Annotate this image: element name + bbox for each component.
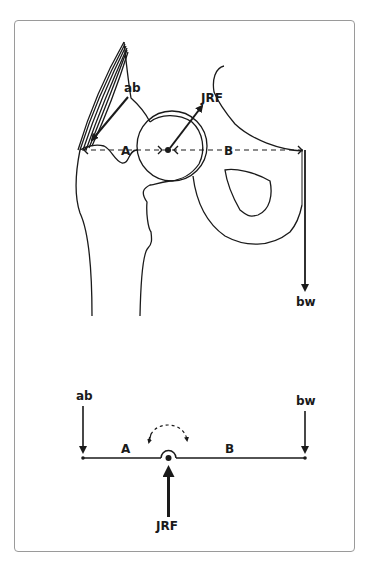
label-b-bottom: B (225, 442, 234, 456)
label-bw-top: bw (296, 295, 316, 309)
label-jrf-top: JRF (200, 91, 223, 105)
femur-medial-outline (140, 181, 170, 316)
label-bw-bottom: bw (296, 394, 316, 408)
label-b-top: B (224, 144, 233, 158)
label-a-top: A (121, 144, 131, 158)
rotation-arc (149, 425, 187, 440)
hip-diagram: ab JRF A B bw ab bw A B JRF (0, 0, 372, 569)
beam-end-left (81, 456, 85, 460)
label-jrf-bottom: JRF (155, 519, 178, 533)
lever-schematic: ab bw A B JRF (76, 389, 316, 533)
abductor-muscle (78, 42, 128, 150)
fulcrum-dot (166, 455, 172, 461)
obturator-foramen (225, 169, 271, 216)
label-a-bottom: A (121, 442, 131, 456)
beam-end-right (303, 456, 307, 460)
label-ab-top: ab (124, 81, 141, 95)
pelvis-outline (213, 66, 303, 151)
label-ab-bottom: ab (76, 389, 93, 403)
anatomical-view (76, 42, 303, 316)
femur-lateral-outline (76, 150, 92, 316)
ischium-outline (193, 176, 302, 244)
